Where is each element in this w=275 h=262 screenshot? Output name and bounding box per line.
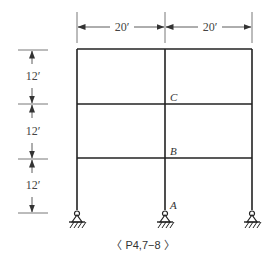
frame-diagram: 20′ 20′ 12′ 12′ 12′ C B A — [0, 0, 275, 262]
support-triangle-icon — [160, 215, 170, 222]
story-height-label-3: 12′ — [26, 69, 41, 83]
story-height-dimensions: 12′ 12′ 12′ — [18, 50, 48, 213]
pin-support-right — [244, 211, 261, 228]
bay-width-dimensions: 20′ 20′ — [77, 12, 252, 43]
bay-width-label-1: 20′ — [115, 20, 130, 34]
support-triangle-icon — [247, 215, 257, 222]
node-label-a: A — [169, 199, 177, 211]
figure-caption: 〈 P4,7−8 〉 — [111, 239, 174, 251]
ground-hatch-icon — [158, 222, 174, 228]
frame-members — [77, 49, 252, 210]
story-height-label-1: 12′ — [26, 178, 41, 192]
node-label-c: C — [170, 91, 178, 103]
ground-hatch-icon — [245, 222, 261, 228]
ground-hatch-icon — [70, 222, 86, 228]
support-triangle-icon — [72, 215, 82, 222]
bay-width-label-2: 20′ — [203, 20, 218, 34]
node-label-b: B — [170, 145, 177, 157]
pin-support-center — [157, 211, 174, 228]
pin-support-left — [69, 211, 86, 228]
story-height-label-2: 12′ — [26, 124, 41, 138]
